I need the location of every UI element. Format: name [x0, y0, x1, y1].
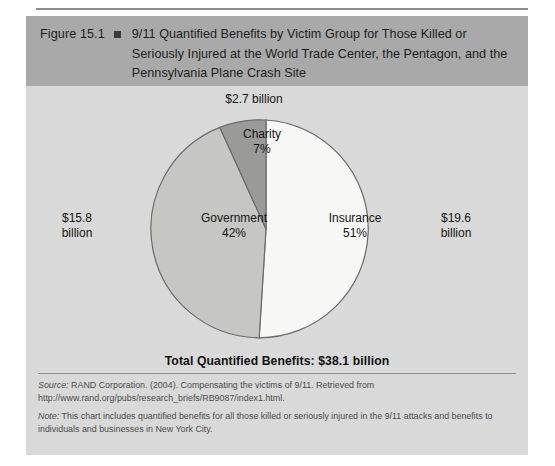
figure-title: 9/11 Quantified Benefits by Victim Group…: [132, 25, 508, 84]
source-divider: [38, 373, 516, 374]
slice-label-charity: Charity 7%: [227, 127, 297, 157]
callout-insurance-value-line2: billion: [421, 226, 491, 241]
figure-root: Figure 15.1 9/11 Quantified Benefits by …: [0, 0, 555, 466]
total-quantified-benefits: Total Quantified Benefits: $38.1 billion: [26, 354, 528, 368]
source-label: Source:: [38, 380, 69, 390]
figure-note: Note: This chart includes quantified ben…: [38, 410, 516, 436]
callout-insurance-value: $19.6 billion: [421, 211, 491, 241]
figure-header-band: Figure 15.1 9/11 Quantified Benefits by …: [26, 16, 528, 86]
square-bullet-icon: [114, 31, 121, 38]
slice-label-government-name: Government: [180, 211, 288, 226]
callout-government-value-line1: $15.8: [42, 211, 112, 226]
slice-label-charity-pct: 7%: [227, 142, 297, 157]
source-note: Source: RAND Corporation. (2004). Compen…: [38, 379, 520, 405]
slice-label-government: Government 42%: [180, 211, 288, 241]
callout-government-value: $15.8 billion: [42, 211, 112, 241]
top-rule-divider: [36, 8, 528, 10]
figure-body-panel: $2.7 billion $15.8 billion $19.6 billion…: [26, 86, 528, 455]
figure-header-inner: Figure 15.1 9/11 Quantified Benefits by …: [40, 25, 508, 84]
pie-chart-area: $2.7 billion $15.8 billion $19.6 billion…: [26, 86, 528, 372]
callout-charity-value: $2.7 billion: [189, 92, 319, 107]
slice-label-government-pct: 42%: [180, 226, 288, 241]
slice-label-charity-name: Charity: [227, 127, 297, 142]
source-text: RAND Corporation. (2004). Compensating t…: [38, 380, 374, 403]
slice-label-insurance: Insurance 51%: [304, 211, 406, 241]
figure-number: Figure 15.1: [40, 25, 105, 44]
note-text: This chart includes quantified benefits …: [38, 411, 493, 434]
note-label: Note:: [38, 411, 59, 421]
callout-government-value-line2: billion: [42, 226, 112, 241]
callout-insurance-value-line1: $19.6: [421, 211, 491, 226]
slice-label-insurance-pct: 51%: [304, 226, 406, 241]
slice-label-insurance-name: Insurance: [304, 211, 406, 226]
